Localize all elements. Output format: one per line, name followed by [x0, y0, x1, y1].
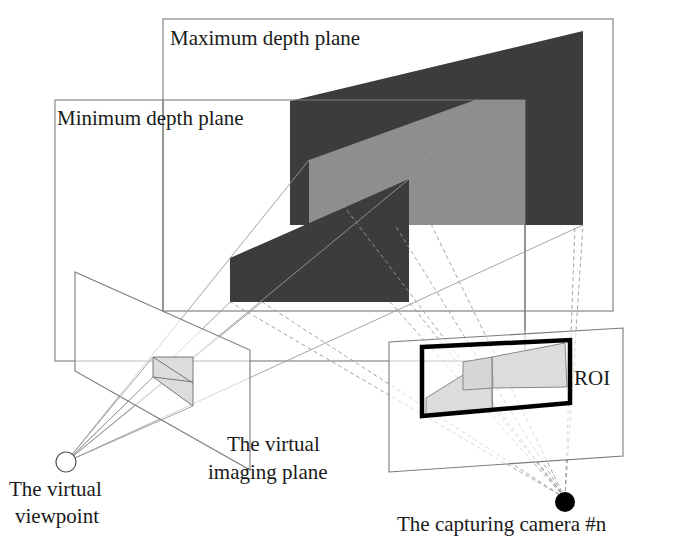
- max-depth-plane-label: Maximum depth plane: [170, 26, 360, 50]
- virtual-viewpoint-icon: [56, 452, 76, 472]
- capturing-camera-label: The capturing camera #n: [397, 512, 607, 536]
- view-synthesis-diagram: Maximum depth plane Minimum depth plane …: [0, 0, 674, 557]
- virtual-imaging-plane-label-line2: imaging plane: [208, 460, 328, 484]
- virtual-viewpoint-label-line2: viewpoint: [15, 504, 99, 528]
- roi-label: ROI: [574, 366, 610, 390]
- diagram-canvas: Maximum depth plane Minimum depth plane …: [0, 0, 674, 557]
- camera-imaging-plane: [389, 328, 623, 472]
- virtual-viewpoint-label-line1: The virtual: [9, 477, 102, 501]
- min-depth-plane-label: Minimum depth plane: [57, 106, 244, 130]
- capturing-camera-icon: [555, 492, 575, 512]
- virtual-imaging-plane-label-line1: The virtual: [227, 432, 320, 456]
